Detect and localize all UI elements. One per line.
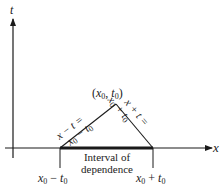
- x-axis-label: x: [213, 141, 219, 154]
- interval-label-line1: Interval of: [72, 151, 142, 163]
- interval-label-line2: dependence: [72, 163, 142, 175]
- right-endpoint-label: x0 + t0: [136, 172, 165, 186]
- left-endpoint-label: x0 − t0: [38, 172, 67, 186]
- t-axis-label: t: [10, 4, 13, 16]
- interval-label: Interval of dependence: [72, 151, 142, 175]
